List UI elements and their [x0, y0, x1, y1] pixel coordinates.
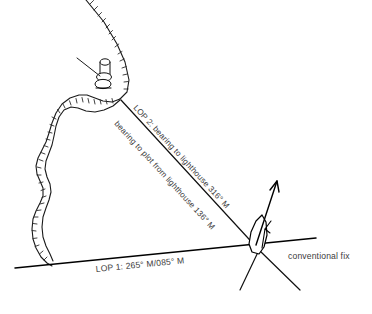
navigation-diagram: LOP 1: 265° M/085° M LOP 2: bearing to l…	[0, 0, 372, 314]
conventional-fix-label: conventional fix	[288, 251, 350, 261]
lighthouse-leader-line	[77, 58, 100, 76]
diagram-canvas: LOP 1: 265° M/085° M LOP 2: bearing to l…	[0, 0, 372, 314]
lop2-line	[121, 100, 259, 250]
coastline	[32, 0, 129, 266]
conventional-fix-text: conventional fix	[288, 251, 350, 261]
